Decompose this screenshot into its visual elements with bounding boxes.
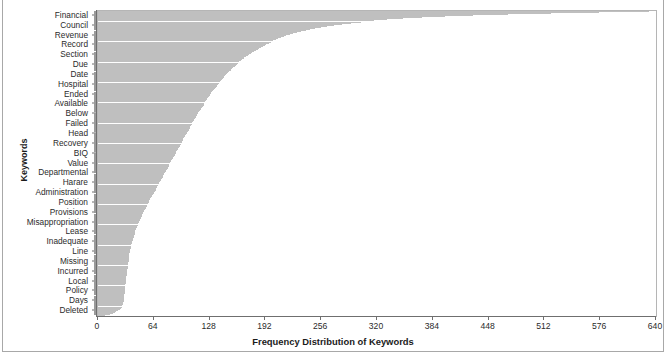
x-axis-tick-mark [488,317,489,320]
plot-area [97,10,657,317]
y-axis-tick-label: Value [67,158,88,167]
y-axis-tick-label: Incurred [58,266,88,275]
document-frame-right-border [663,0,664,352]
y-axis-tick-label: Due [73,60,88,69]
y-axis-tick-label: Failed [65,119,88,128]
x-axis-tick-label: 0 [95,321,100,331]
x-axis-tick-label: 640 [648,321,662,331]
x-axis-tick-mark [209,317,210,320]
y-axis-tick-label: Inadequate [46,237,88,246]
y-axis-tick-label: Policy [66,286,88,295]
y-axis-tick-label: Below [65,109,88,118]
x-axis-tick-label: 320 [369,321,383,331]
y-axis-tick-label: Head [68,128,88,137]
y-axis-tick-label: Days [69,296,88,305]
y-axis-tick-label: Ended [64,89,88,98]
y-axis-tick-group: FinancialCouncilRevenueRecordSectionDueD… [0,10,96,315]
y-axis-tick-label: Lease [65,227,88,236]
x-axis-tick-mark [320,317,321,320]
y-axis-tick-label: Hospital [58,79,88,88]
y-axis-tick-label: Harare [63,178,88,187]
chart-figure: Keywords FinancialCouncilRevenueRecordSe… [0,0,666,361]
x-axis-tick-mark [432,317,433,320]
x-axis-tick-label: 384 [425,321,439,331]
x-axis-tick-mark [264,317,265,320]
x-axis-tick-label: 576 [592,321,606,331]
x-axis-tick-mark [599,317,600,320]
x-axis-tick-label: 512 [536,321,550,331]
document-frame-bottom-border [2,351,664,352]
x-axis-tick-label: 448 [480,321,494,331]
x-axis-tick-mark [153,317,154,320]
y-axis-tick-label: BIQ [74,148,88,157]
x-axis-tick-mark [655,317,656,320]
y-axis-tick-label: Section [60,50,88,59]
bar-series [98,11,656,316]
y-axis-tick-label: Position [58,197,88,206]
y-axis-tick-label: Misappropriation [27,217,88,226]
x-axis-tick-label: 128 [201,321,215,331]
y-axis-tick-label: Line [72,247,88,256]
y-axis-tick-label: Departmental [38,168,88,177]
x-axis-tick-mark [543,317,544,320]
y-axis-tick-label: Recovery [53,138,88,147]
y-axis-tick-label: Revenue [55,30,88,39]
y-axis-tick-label: Date [70,69,88,78]
x-axis-tick-label: 256 [313,321,327,331]
y-axis-tick-label: Local [68,276,88,285]
y-axis-tick-label: Administration [35,188,88,197]
y-axis-tick-label: Financial [55,10,88,19]
y-axis-tick-label: Missing [60,256,88,265]
x-axis-tick-mark [376,317,377,320]
y-axis-tick-label: Record [61,40,88,49]
x-axis-tick-label: 64 [148,321,158,331]
y-axis-tick-label: Council [60,20,88,29]
y-axis-tick-label: Available [54,99,88,108]
x-axis-title: Frequency Distribution of Keywords [0,336,666,347]
y-axis-tick-label: Provisions [50,207,88,216]
y-axis-tick-label: Deleted [59,306,88,315]
x-axis-tick-mark [97,317,98,320]
x-axis-tick-label: 192 [257,321,271,331]
